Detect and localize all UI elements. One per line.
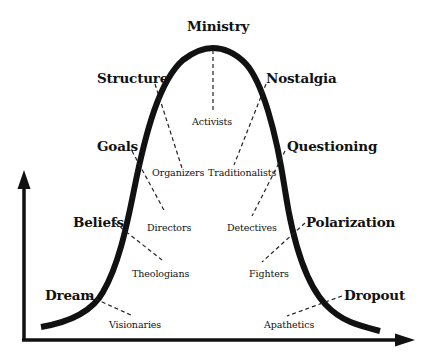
stage-label-dream: Dream [45, 289, 94, 303]
role-label-detectives: Detectives [227, 223, 277, 233]
stage-label-beliefs: Beliefs [73, 216, 124, 230]
role-label-fighters: Fighters [249, 269, 289, 279]
role-label-activists: Activists [192, 117, 232, 127]
stage-label-ministry: Ministry [187, 20, 249, 34]
lifecycle-diagram [0, 0, 428, 363]
leader-lines [89, 50, 342, 316]
x-axis-arrow-icon [395, 334, 415, 347]
stage-label-structure: Structure [97, 72, 168, 86]
stage-label-goals: Goals [97, 140, 138, 154]
stage-label-questioning: Questioning [287, 140, 377, 154]
x-axis [22, 334, 415, 347]
role-label-directors: Directors [147, 223, 191, 233]
role-label-traditionalists: Traditionalists [208, 168, 276, 178]
stage-label-nostalgia: Nostalgia [266, 72, 337, 86]
y-axis-arrow-icon [18, 170, 31, 189]
role-label-apathetics: Apathetics [264, 320, 314, 330]
role-label-visionaries: Visionaries [109, 320, 161, 330]
leader-questioning [252, 151, 285, 216]
role-label-theologians: Theologians [132, 269, 189, 279]
role-label-organizers: Organizers [152, 168, 204, 178]
stage-label-dropout: Dropout [344, 289, 405, 303]
y-axis [18, 170, 31, 341]
stage-label-polarization: Polarization [306, 216, 395, 230]
